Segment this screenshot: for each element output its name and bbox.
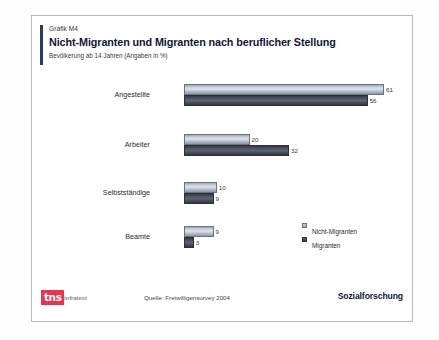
category-label: Arbeiter (40, 140, 150, 150)
infratest-wordmark: infratest (64, 295, 87, 301)
bar[interactable] (184, 95, 368, 106)
bar-value-label: 56 (370, 95, 377, 107)
slide-footer: tns infratest Quelle: Freiwilligensurvey… (32, 287, 412, 313)
bar-value-label: 10 (219, 182, 226, 194)
slide-card: Grafik M4 Nicht-Migranten und Migranten … (31, 15, 413, 322)
bar[interactable] (184, 226, 214, 237)
category-label: Beamte (40, 232, 150, 242)
bar[interactable] (184, 182, 217, 193)
bar-row: 61 (184, 84, 406, 95)
bar-row: 20 (184, 134, 406, 145)
legend-item[interactable]: Migranten (302, 234, 402, 248)
brand-line: Sozialforschung (338, 291, 403, 301)
bar-value-label: 9 (216, 226, 219, 238)
bar-row: 32 (184, 145, 406, 156)
bar-value-label: 9 (216, 193, 219, 205)
category-label: Angestellte (40, 90, 150, 100)
bar[interactable] (184, 193, 214, 204)
bar-value-label: 3 (196, 237, 199, 249)
tns-logo-mark: tns (41, 290, 64, 305)
bar-group: 6156 (184, 84, 406, 106)
title-block: Grafik M4 Nicht-Migranten und Migranten … (40, 24, 409, 60)
chart-legend: Nicht-MigrantenMigranten (302, 220, 402, 248)
bar[interactable] (184, 145, 289, 156)
legend-label: Migranten (312, 242, 340, 249)
tns-infratest-logo: tns infratest (41, 289, 87, 306)
bar-row: 56 (184, 95, 406, 106)
bar-group: 2032 (184, 134, 406, 156)
legend-swatch (302, 223, 307, 228)
page-title: Nicht-Migranten und Migranten nach beruf… (49, 35, 409, 49)
legend-item[interactable]: Nicht-Migranten (302, 220, 402, 234)
bar-value-label: 61 (386, 84, 393, 96)
legend-swatch (302, 237, 307, 242)
bar-group: 109 (184, 182, 406, 204)
category-label: Selbstständige (40, 188, 150, 198)
chart-kicker: Grafik M4 (49, 24, 409, 33)
chart-plot-area: Angestellte6156Arbeiter2032Selbstständig… (40, 78, 406, 283)
source-note: Quelle: Freiwilligensurvey 2004 (144, 294, 230, 301)
bar-row: 10 (184, 182, 406, 193)
chart-subtitle: Bevölkerung ab 14 Jahren (Angaben in %) (49, 51, 409, 60)
slide-page: Grafik M4 Nicht-Migranten und Migranten … (0, 0, 439, 340)
bar-value-label: 20 (252, 134, 259, 146)
bar[interactable] (184, 134, 250, 145)
title-accent-bar (40, 25, 43, 65)
bar-row: 9 (184, 193, 406, 204)
bar[interactable] (184, 237, 194, 248)
bar-value-label: 32 (291, 145, 298, 157)
bar[interactable] (184, 84, 384, 95)
